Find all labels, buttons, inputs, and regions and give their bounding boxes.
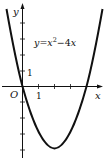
y-axis-arrow-icon bbox=[21, 3, 25, 9]
x-axis-label: x bbox=[95, 90, 101, 101]
x-axis-arrow-icon bbox=[97, 85, 103, 89]
parabola-chart: y x O 1 1 y=x2−4x bbox=[0, 0, 105, 159]
parabola-curve bbox=[7, 9, 103, 149]
x-tick-1-label: 1 bbox=[36, 91, 42, 101]
origin-label: O bbox=[10, 89, 18, 100]
y-axis-label: y bbox=[12, 6, 19, 17]
y-tick-1-label: 1 bbox=[27, 68, 33, 78]
equation-label: y=x2−4x bbox=[33, 36, 77, 48]
